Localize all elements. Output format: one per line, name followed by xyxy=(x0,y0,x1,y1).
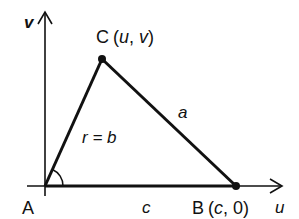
vertex-c-dot xyxy=(98,55,106,63)
vertex-c-label: C(u, v) xyxy=(96,27,154,47)
u-axis-label: u xyxy=(275,198,285,217)
triangle-diagram: v u C(u, v) a r = b c A B(c, 0) xyxy=(0,0,299,219)
angle-arc-icon xyxy=(53,170,64,187)
v-axis-label: v xyxy=(24,13,35,32)
side-b-label: r = b xyxy=(82,128,117,147)
vertex-b-dot xyxy=(232,182,240,190)
side-a-label: a xyxy=(178,103,187,122)
vertex-a-label: A xyxy=(22,198,34,218)
side-c-label: c xyxy=(142,198,151,217)
side-b xyxy=(45,59,102,186)
side-a xyxy=(102,59,236,186)
vertex-b-label: B(c, 0) xyxy=(192,198,249,218)
vertical-axis xyxy=(38,12,52,196)
